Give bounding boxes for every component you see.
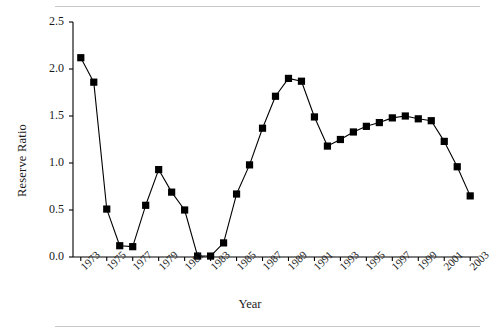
y-tick-label: 1.5 — [30, 108, 64, 123]
data-point-marker — [103, 205, 110, 212]
y-tick-label: 0.0 — [30, 249, 64, 264]
data-point-marker — [298, 78, 305, 85]
plot-area — [0, 0, 500, 333]
data-point-marker — [454, 163, 461, 170]
data-point-marker — [168, 189, 175, 196]
data-point-marker — [77, 54, 84, 61]
data-point-marker — [428, 117, 435, 124]
y-tick-label: 2.0 — [30, 61, 64, 76]
data-point-marker — [415, 115, 422, 122]
data-point-marker — [259, 125, 266, 132]
data-point-marker — [363, 123, 370, 130]
data-point-marker — [324, 142, 331, 149]
y-tick-label: 0.5 — [30, 202, 64, 217]
y-axis-ticks — [69, 22, 73, 257]
axis-lines — [73, 22, 478, 257]
data-point-marker — [467, 192, 474, 199]
y-tick-label: 1.0 — [30, 155, 64, 170]
data-point-marker — [441, 138, 448, 145]
data-point-marker — [90, 79, 97, 86]
data-point-marker — [311, 113, 318, 120]
chart-figure: Reserve Ratio Year 0.00.51.01.52.02.5 19… — [0, 0, 500, 333]
data-point-marker — [181, 206, 188, 213]
data-point-marker — [129, 243, 136, 250]
data-point-marker — [285, 75, 292, 82]
data-point-marker — [233, 190, 240, 197]
data-point-marker — [350, 128, 357, 135]
data-point-marker — [376, 119, 383, 126]
data-point-marker — [155, 166, 162, 173]
data-point-marker — [337, 136, 344, 143]
data-point-marker — [389, 114, 396, 121]
data-point-marker — [246, 161, 253, 168]
data-point-marker — [272, 93, 279, 100]
data-point-marker — [220, 239, 227, 246]
y-tick-label: 2.5 — [30, 14, 64, 29]
data-point-marker — [402, 112, 409, 119]
data-markers — [77, 54, 474, 260]
data-line — [81, 58, 470, 256]
data-point-marker — [142, 202, 149, 209]
